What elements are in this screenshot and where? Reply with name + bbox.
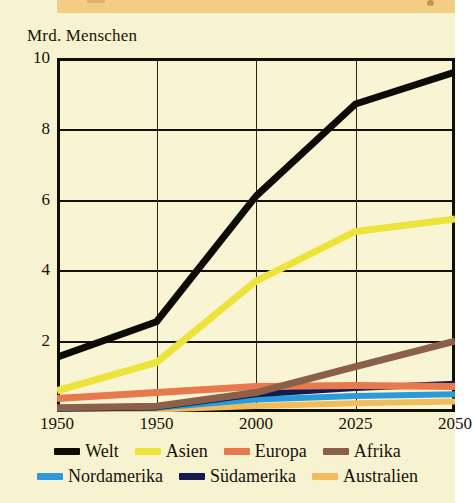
series-lines-layer	[57, 58, 455, 412]
chart-page: Mrd. Menschen 108642 1950195020002025205…	[0, 0, 474, 503]
x-tick-label: 1950	[140, 414, 174, 434]
chart-legend: WeltAsienEuropaAfrika NordamerikaSüdamer…	[0, 441, 455, 491]
y-tick-label: 6	[42, 189, 51, 209]
legend-row-secondary: NordamerikaSüdamerikaAustralien	[0, 466, 455, 487]
band-dash-mark	[87, 0, 105, 3]
legend-label: Europa	[255, 441, 307, 462]
legend-swatch-icon	[224, 448, 250, 455]
legend-item[interactable]: Welt	[54, 441, 119, 462]
y-tick-label: 2	[42, 331, 51, 351]
legend-label: Australien	[343, 466, 418, 487]
y-tick-label: 4	[42, 260, 51, 280]
x-tick-label: 2025	[339, 414, 373, 434]
legend-label: Nordamerika	[68, 466, 163, 487]
series-line-asien	[57, 219, 455, 391]
legend-swatch-icon	[37, 473, 63, 480]
x-tick-label: 2050	[438, 414, 472, 434]
legend-swatch-icon	[54, 448, 80, 455]
band-dot-mark	[427, 0, 434, 6]
legend-swatch-icon	[135, 448, 161, 455]
x-tick-label: 1950	[40, 414, 74, 434]
legend-item[interactable]: Asien	[135, 441, 208, 462]
legend-row-primary: WeltAsienEuropaAfrika	[0, 441, 455, 462]
legend-item[interactable]: Australien	[312, 466, 418, 487]
legend-swatch-icon	[312, 473, 338, 480]
y-axis-title: Mrd. Menschen	[27, 26, 137, 46]
legend-label: Welt	[85, 441, 119, 462]
top-color-band	[57, 0, 455, 13]
legend-label: Asien	[166, 441, 208, 462]
legend-item[interactable]: Südamerika	[179, 466, 296, 487]
legend-item[interactable]: Afrika	[323, 441, 401, 462]
x-tick-label: 2000	[239, 414, 273, 434]
legend-item[interactable]: Nordamerika	[37, 466, 163, 487]
legend-label: Südamerika	[210, 466, 296, 487]
y-tick-label: 10	[33, 48, 50, 68]
series-line-welt	[57, 72, 455, 357]
y-axis-tick-labels: 108642	[0, 58, 50, 412]
legend-swatch-icon	[179, 473, 205, 480]
y-tick-label: 8	[42, 118, 51, 138]
legend-label: Afrika	[354, 441, 401, 462]
legend-item[interactable]: Europa	[224, 441, 307, 462]
legend-swatch-icon	[323, 448, 349, 455]
